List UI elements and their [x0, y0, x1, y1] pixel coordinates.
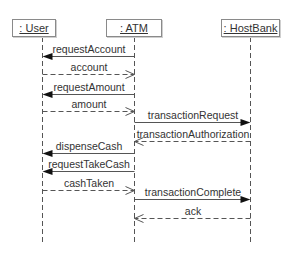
- object-hostbank-label: : HostBank: [224, 22, 278, 34]
- message-label-dispensecash: dispenseCash: [56, 140, 123, 152]
- filled-arrowhead-icon: [43, 53, 53, 60]
- object-atm-label: : ATM: [120, 22, 148, 34]
- message-label-requestamount: requestAmount: [53, 81, 124, 93]
- message-label-ack: ack: [185, 205, 201, 217]
- filled-arrowhead-icon: [241, 119, 251, 126]
- filled-arrowhead-icon: [43, 91, 53, 98]
- object-atm: : ATM: [106, 19, 162, 37]
- message-label-transactionauthorization: transactionAuthorization: [137, 128, 250, 140]
- message-label-requestaccount: requestAccount: [53, 43, 126, 55]
- message-label-requesttakecash: requestTakeCash: [48, 158, 130, 170]
- filled-arrowhead-icon: [241, 196, 251, 203]
- diagram-lines: [0, 0, 295, 253]
- message-label-account: account: [71, 61, 108, 73]
- message-label-transactionrequest: transactionRequest: [148, 109, 238, 121]
- object-user: : User: [12, 19, 56, 37]
- object-user-label: : User: [19, 22, 48, 34]
- message-label-transactioncomplete: transactionComplete: [145, 186, 241, 198]
- sequence-diagram: : User : ATM : HostBank requestAccount a…: [0, 0, 295, 253]
- message-label-cashtaken: cashTaken: [64, 177, 114, 189]
- object-hostbank: : HostBank: [221, 19, 280, 37]
- filled-arrowhead-icon: [43, 150, 53, 157]
- message-label-amount: amount: [71, 98, 106, 110]
